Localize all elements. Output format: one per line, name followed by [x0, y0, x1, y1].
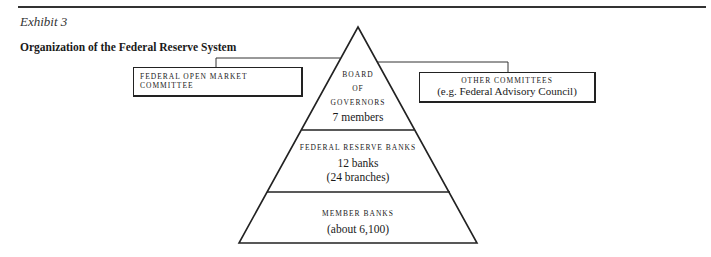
- fomc-box: FEDERAL OPEN MARKET COMMITTEE: [133, 67, 303, 97]
- member-detail: (about 6,100): [280, 222, 436, 236]
- fomc-label: FEDERAL OPEN MARKET COMMITTEE: [134, 68, 301, 90]
- member-label: MEMBER BANKS: [280, 206, 436, 222]
- tier-federal-reserve-banks: FEDERAL RESERVE BANKS 12 banks (24 branc…: [280, 140, 436, 184]
- other-committees-label: OTHER COMMITTEES: [420, 73, 594, 85]
- tier-member-banks: MEMBER BANKS (about 6,100): [280, 206, 436, 236]
- frb-detail: 12 banks: [280, 156, 436, 170]
- board-line-3: GOVERNORS: [318, 96, 398, 110]
- frb-label: FEDERAL RESERVE BANKS: [280, 140, 436, 156]
- board-line-2: OF: [318, 82, 398, 96]
- frb-detail-2: (24 branches): [280, 170, 436, 184]
- board-line-1: BOARD: [318, 68, 398, 82]
- other-committees-box: OTHER COMMITTEES (e.g. Federal Advisory …: [419, 72, 596, 103]
- fomc-connector: [216, 58, 340, 67]
- other-committees-sublabel: (e.g. Federal Advisory Council): [420, 85, 594, 98]
- tier-board-of-governors: BOARD OF GOVERNORS 7 members: [318, 68, 398, 124]
- board-detail: 7 members: [318, 110, 398, 124]
